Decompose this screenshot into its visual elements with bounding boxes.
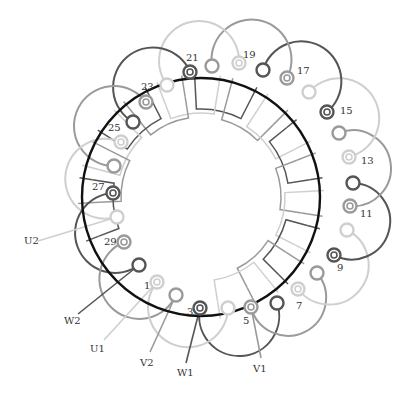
pin-connector xyxy=(311,267,324,280)
pin-connector xyxy=(127,116,140,129)
pin-connector xyxy=(347,177,360,190)
winding-diagram: U2W2U1V2W1V11357911131517192123252729 xyxy=(0,0,403,394)
terminal-label-w2: W2 xyxy=(64,315,81,326)
terminal-label-w1: W1 xyxy=(177,367,194,378)
pin-number-label: 29 xyxy=(104,236,117,247)
pin-number-label: 23 xyxy=(141,81,154,92)
pin-number-label: 17 xyxy=(297,65,310,76)
inner-coil xyxy=(276,160,302,213)
pin-connector xyxy=(111,211,124,224)
pin-number-label: 3 xyxy=(187,306,193,317)
pin-terminal-25 xyxy=(115,136,128,149)
pin-layer xyxy=(107,57,360,315)
pin-terminal-13 xyxy=(343,151,356,164)
pin-number-label: 13 xyxy=(361,155,374,166)
pin-number-label: 9 xyxy=(337,262,343,273)
pin-connector xyxy=(257,64,270,77)
pin-connector xyxy=(341,224,354,237)
pin-connector xyxy=(133,259,146,272)
pin-terminal-29 xyxy=(118,236,131,249)
pin-terminal-11 xyxy=(344,200,357,213)
terminal-lead xyxy=(251,307,261,358)
pin-terminal-9 xyxy=(328,249,341,262)
inner-coil xyxy=(237,241,286,288)
pin-terminal-27 xyxy=(107,187,120,200)
terminal-label-u2: U2 xyxy=(24,235,39,246)
end-loop xyxy=(251,273,326,336)
terminal-label-u1: U1 xyxy=(90,343,105,354)
pin-terminal-15 xyxy=(321,106,334,119)
pin-connector xyxy=(222,302,235,315)
pin-number-label: 19 xyxy=(243,49,256,60)
pin-connector xyxy=(108,160,121,173)
coil-lead xyxy=(307,191,324,192)
pin-labels: U2W2U1V2W1V11357911131517192123252729 xyxy=(24,49,374,378)
coil-lead xyxy=(307,225,320,228)
coil-lead xyxy=(80,178,93,180)
inner-coil xyxy=(163,92,218,118)
pin-connector xyxy=(333,127,346,140)
terminal-label-v1: V1 xyxy=(252,363,267,374)
pin-connector xyxy=(170,289,183,302)
pin-connector xyxy=(303,86,316,99)
pin-connector xyxy=(161,79,174,92)
end-loop xyxy=(159,21,239,85)
pin-number-label: 15 xyxy=(340,105,353,116)
pin-terminal-3 xyxy=(194,302,207,315)
end-loop xyxy=(263,41,341,112)
pin-number-label: 1 xyxy=(144,280,150,291)
pin-terminal-21 xyxy=(184,66,197,79)
pin-number-label: 7 xyxy=(296,300,302,311)
pin-terminal-7 xyxy=(292,283,305,296)
end-loop xyxy=(298,230,369,304)
end-loop xyxy=(309,78,379,157)
end-loop xyxy=(65,139,121,219)
coil-lead xyxy=(310,178,323,180)
pin-terminal-17 xyxy=(281,72,294,85)
inner-coil xyxy=(214,262,268,301)
pin-number-label: 25 xyxy=(108,122,121,133)
pin-terminal-23 xyxy=(140,96,153,109)
pin-terminal-5 xyxy=(245,301,258,314)
pin-number-label: 27 xyxy=(92,181,105,192)
pin-number-label: 5 xyxy=(243,315,249,326)
pin-connector xyxy=(206,60,219,73)
pin-terminal-1 xyxy=(151,276,164,289)
pin-number-label: 21 xyxy=(186,52,199,63)
end-loop xyxy=(339,130,391,206)
pin-number-label: 11 xyxy=(360,208,373,219)
pin-connector xyxy=(271,297,284,310)
terminal-label-v2: V2 xyxy=(139,357,154,368)
